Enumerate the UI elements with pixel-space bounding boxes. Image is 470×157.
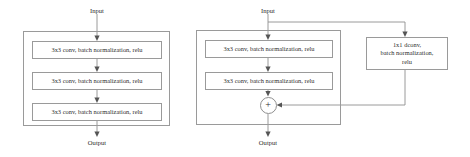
residual-merge-node[interactable]: + [260,97,277,114]
residual-input-label: Input [248,7,288,14]
res-output-arrowhead [265,132,270,138]
residual-shortcut-dconv-layer[interactable]: 1x1 dconv, batch normalization, relu [366,37,448,70]
plus-symbol: + [265,100,271,110]
plain-conv-layer-2[interactable]: 3x3 conv, batch normalization, relu [32,72,162,90]
plain-conv-layer-3[interactable]: 3x3 conv, batch normalization, relu [32,103,162,121]
residual-conv-layer-1[interactable]: 3x3 conv, batch normalization, relu [205,40,333,58]
plain-output-arrowhead [94,132,99,138]
plain-conv-layer-1[interactable]: 3x3 conv, batch normalization, relu [32,41,162,59]
plain-input-label: Input [77,7,117,14]
plain-output-label: Output [77,139,117,146]
residual-output-label: Output [248,139,288,146]
figure-canvas: Input 3x3 conv, batch normalization, rel… [0,0,470,157]
residual-conv-layer-2[interactable]: 3x3 conv, batch normalization, relu [205,72,333,90]
